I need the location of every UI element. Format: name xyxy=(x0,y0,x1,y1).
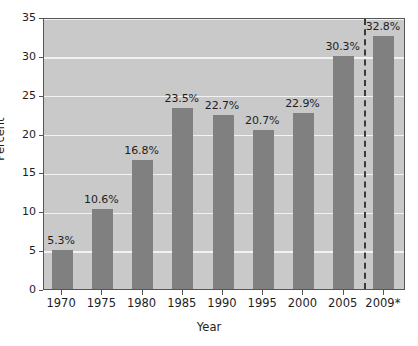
y-tick-label: 10 xyxy=(4,205,36,218)
bar-value-label: 20.7% xyxy=(238,114,286,127)
x-tick-label: 2005 xyxy=(328,296,357,310)
x-tick-label: 1970 xyxy=(46,296,75,310)
x-tick-mark xyxy=(222,290,223,295)
x-tick-label: 1975 xyxy=(87,296,116,310)
x-tick-mark xyxy=(383,290,384,295)
bar-chart: Percent 05101520253035 5.3%10.6%16.8%23.… xyxy=(0,0,418,346)
bar xyxy=(92,209,113,290)
bar xyxy=(213,115,234,290)
bar-value-label: 32.8% xyxy=(359,20,407,33)
bar xyxy=(333,56,354,290)
x-tick-label: 1985 xyxy=(167,296,196,310)
y-tick-label: 20 xyxy=(4,128,36,141)
x-tick-mark xyxy=(61,290,62,295)
bar-value-label: 22.7% xyxy=(198,99,246,112)
x-tick-label: 2009* xyxy=(365,296,400,310)
y-tick-label: 35 xyxy=(4,11,36,24)
x-tick-mark xyxy=(182,290,183,295)
bar xyxy=(293,113,314,290)
y-tick-label: 5 xyxy=(4,244,36,257)
x-tick-label: 1995 xyxy=(248,296,277,310)
x-tick-label: 2000 xyxy=(288,296,317,310)
x-tick-mark xyxy=(262,290,263,295)
x-tick-label: 1980 xyxy=(127,296,156,310)
bar xyxy=(132,160,153,290)
x-tick-mark xyxy=(343,290,344,295)
bar xyxy=(172,108,193,290)
x-axis-title: Year xyxy=(0,320,418,334)
x-tick-label: 1990 xyxy=(207,296,236,310)
bar-value-label: 10.6% xyxy=(77,193,125,206)
gridline xyxy=(44,18,404,19)
y-tick-label: 15 xyxy=(4,166,36,179)
x-tick-mark xyxy=(302,290,303,295)
bar-value-label: 22.9% xyxy=(278,97,326,110)
y-tick-label: 0 xyxy=(4,283,36,296)
plot-area xyxy=(43,18,405,290)
x-tick-mark xyxy=(101,290,102,295)
y-tick-label: 25 xyxy=(4,89,36,102)
bar-value-label: 30.3% xyxy=(319,40,367,53)
bar xyxy=(253,130,274,290)
y-tick-label: 30 xyxy=(4,50,36,63)
y-tick-mark xyxy=(39,290,43,291)
forecast-divider xyxy=(364,19,366,289)
bar xyxy=(373,36,394,290)
x-tick-mark xyxy=(142,290,143,295)
bar-value-label: 16.8% xyxy=(118,144,166,157)
bar xyxy=(52,250,73,290)
bar-value-label: 5.3% xyxy=(37,234,85,247)
